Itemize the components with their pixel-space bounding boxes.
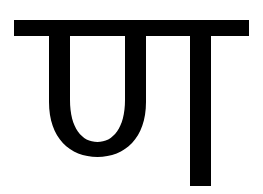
glyph-canvas: पा — [0, 0, 263, 194]
headline-bar — [14, 20, 249, 36]
devanagari-glyph-icon — [0, 0, 263, 194]
vertical-stem — [190, 36, 211, 186]
u-stroke — [49, 36, 146, 157]
